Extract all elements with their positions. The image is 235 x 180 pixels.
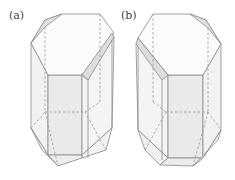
crystal-diagram: (a) (b) [0, 0, 235, 180]
crystal-a [31, 14, 114, 166]
crystal-b [136, 14, 221, 166]
crystal-drawings [0, 0, 235, 180]
crystal-a-bottom-front [48, 155, 82, 166]
crystal-b-front-face [168, 75, 203, 158]
crystal-a-front-face [48, 75, 82, 155]
